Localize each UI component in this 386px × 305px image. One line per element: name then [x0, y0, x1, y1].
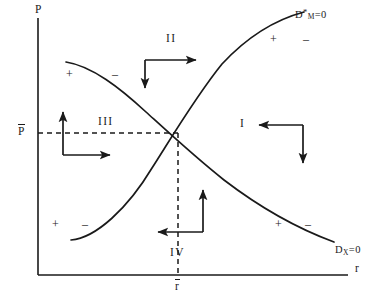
dm-label-eq: =0	[315, 9, 327, 20]
rbar-text: r	[175, 281, 179, 293]
x-tick-label-rbar: r	[175, 281, 179, 293]
region-iv-arrows	[158, 190, 203, 232]
y-axis-label: P	[35, 4, 42, 16]
sign-dm-upper-right-minus: –	[303, 33, 309, 45]
sign-dm-lower-left-plus: +	[52, 218, 59, 230]
dx-label-eq: =0	[349, 244, 361, 255]
sign-dx-lower-right-plus: +	[275, 218, 282, 230]
sign-dm-lower-left-minus: –	[82, 218, 88, 230]
sign-dx-lower-right-minus: –	[305, 218, 311, 230]
region-ii-arrows	[145, 60, 196, 88]
sign-dx-upper-left-plus: +	[66, 68, 73, 80]
x-axis-label: r	[355, 263, 359, 275]
sign-dm-upper-right-plus: +	[270, 33, 277, 45]
dm-curve-label: D*M=0	[295, 8, 327, 21]
dm-label-sub: M	[308, 12, 315, 21]
region-label-iv: IV	[170, 247, 185, 259]
diagram-canvas	[0, 0, 386, 305]
y-tick-label-pbar: P	[18, 126, 25, 138]
region-i-arrows	[259, 125, 303, 163]
dx-curve-label: DX=0	[335, 245, 361, 256]
region-label-ii: II	[166, 33, 176, 45]
dx-label-base: D	[335, 244, 343, 255]
region-label-iii: III	[98, 116, 113, 128]
region-label-i: I	[240, 118, 245, 130]
pbar-text: P	[18, 126, 25, 138]
dx-curve-path	[66, 62, 334, 242]
phase-diagram-figure: P r P r D*M=0 DX=0 II I III IV + – + – +…	[0, 0, 386, 305]
dm-label-base: D	[295, 9, 303, 20]
sign-dx-upper-left-minus: –	[112, 68, 118, 80]
